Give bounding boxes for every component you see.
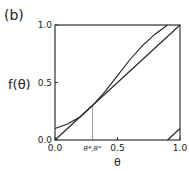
y-tick-label: 1.0 bbox=[38, 20, 53, 30]
x-tick-label: 0.5 bbox=[110, 143, 124, 153]
series-f-branch-1 bbox=[55, 25, 168, 129]
series-diagonal bbox=[55, 25, 180, 140]
fixed-point-label: θ*,θ° bbox=[84, 145, 102, 153]
x-axis-label: θ bbox=[114, 156, 121, 169]
y-axis-label: f(θ) bbox=[8, 77, 31, 92]
panel-label: (b) bbox=[4, 7, 24, 23]
chart: (b) f(θ) θ 0.00.51.00.00.51.0 θ*,θ° bbox=[0, 0, 189, 171]
y-tick-label: 0.5 bbox=[38, 78, 52, 88]
y-tick-label: 0.0 bbox=[38, 135, 53, 145]
x-tick-label: 1.0 bbox=[173, 143, 188, 153]
series-f-branch-2 bbox=[168, 129, 181, 141]
